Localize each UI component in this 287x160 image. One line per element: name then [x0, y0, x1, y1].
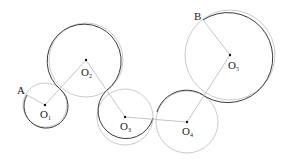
label-o4: O4	[182, 125, 193, 138]
label-b: B	[194, 10, 201, 22]
label-o1: O1	[40, 108, 51, 121]
label-o5: O5	[228, 59, 239, 72]
segment-o5-b	[203, 20, 230, 55]
center-dot-o1	[44, 104, 46, 106]
center-dot-o5	[229, 54, 231, 56]
arc-o2	[47, 24, 121, 91]
arc-o5	[203, 13, 273, 103]
segment-o2-o3	[86, 60, 125, 117]
circle-chain-diagram: A B O1 O2 O3 O4 O5	[0, 0, 287, 160]
segment-o4-o5	[187, 55, 230, 122]
center-dot-o3	[124, 116, 126, 118]
label-o3: O3	[120, 120, 131, 133]
segment-a-o1	[27, 95, 45, 105]
center-dot-o2	[85, 59, 87, 61]
label-o2: O2	[81, 66, 92, 79]
label-a: A	[17, 84, 25, 96]
light-circles	[23, 10, 275, 153]
center-points	[44, 54, 231, 123]
center-dot-o4	[186, 121, 188, 123]
